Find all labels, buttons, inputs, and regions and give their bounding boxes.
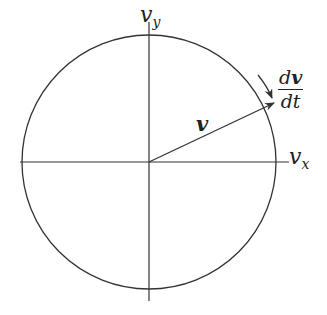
x-axis-label-var: v	[289, 144, 301, 169]
velocity-vector-arrow	[149, 103, 274, 162]
x-axis-label-subscript: x	[301, 156, 309, 172]
vector-label: v	[196, 113, 208, 134]
diagram-canvas	[0, 0, 327, 315]
y-axis-label-var: v	[140, 2, 152, 27]
velocity-circle-diagram: vy vx v dv dt	[0, 0, 327, 315]
derivative-denominator: dt	[278, 90, 303, 111]
derivative-var: v	[291, 66, 302, 88]
x-axis-label: vx	[289, 146, 309, 171]
y-axis-label: vy	[140, 4, 160, 29]
derivative-numerator: dv	[278, 68, 303, 90]
derivative-label: dv dt	[278, 68, 303, 111]
y-axis-label-subscript: y	[152, 14, 160, 30]
derivative-d: d	[279, 66, 291, 88]
tangent-direction-arrow	[258, 75, 272, 98]
